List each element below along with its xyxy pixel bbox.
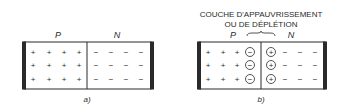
electron-charge: − — [109, 48, 114, 57]
hole-charge: + — [77, 48, 82, 57]
electron-charge: − — [298, 61, 303, 70]
hole-charge: + — [235, 48, 240, 57]
electron-charge: − — [313, 75, 318, 84]
electron-charge: − — [124, 48, 129, 57]
depletion-title-line1: COUCHE D'APPAUVRISSEMENT — [200, 10, 323, 19]
positive-ion: + — [269, 61, 274, 70]
hole-charge: + — [206, 48, 211, 57]
depletion-brace — [247, 31, 275, 36]
hole-charge: + — [206, 75, 211, 84]
electron-charge: − — [94, 61, 99, 70]
p-region-label-a: P — [55, 30, 61, 40]
depletion-title-line2: OU DE DÉPLÉTION — [225, 20, 298, 29]
hole-charge: + — [31, 61, 36, 70]
negative-ion: − — [248, 75, 253, 84]
hole-charge: + — [235, 75, 240, 84]
pn-junction-diagram: P N a) ++++−−−−++++−−−−++++−−−− COUCHE D… — [0, 0, 350, 110]
hole-charge: + — [221, 75, 226, 84]
electron-charge: − — [124, 75, 129, 84]
positive-ion: + — [269, 48, 274, 57]
figure-a: P N a) ++++−−−−++++−−−−++++−−−− — [22, 30, 154, 104]
charges-b: +++−−−−++++−−−−++++−−−−+ — [206, 48, 318, 85]
electron-charge: − — [298, 75, 303, 84]
electron-charge: − — [124, 61, 129, 70]
electron-charge: − — [313, 48, 318, 57]
hole-charge: + — [31, 75, 36, 84]
caption-a: a) — [83, 95, 90, 104]
electron-charge: − — [109, 75, 114, 84]
p-region-label-b: P — [230, 30, 236, 40]
electron-charge: − — [139, 75, 144, 84]
hole-charge: + — [235, 61, 240, 70]
electron-charge: − — [139, 48, 144, 57]
hole-charge: + — [221, 61, 226, 70]
hole-charge: + — [62, 48, 67, 57]
caption-b: b) — [257, 95, 264, 104]
left-contact-b — [197, 42, 201, 90]
electron-charge: − — [94, 48, 99, 57]
electron-charge: − — [283, 61, 288, 70]
left-contact-a — [22, 42, 26, 90]
hole-charge: + — [77, 75, 82, 84]
electron-charge: − — [283, 48, 288, 57]
electron-charge: − — [94, 75, 99, 84]
positive-ion: + — [269, 75, 274, 84]
hole-charge: + — [47, 75, 52, 84]
electron-charge: − — [109, 61, 114, 70]
negative-ion: − — [248, 61, 253, 70]
hole-charge: + — [31, 48, 36, 57]
electron-charge: − — [298, 48, 303, 57]
right-contact-b — [323, 42, 327, 90]
hole-charge: + — [221, 48, 226, 57]
hole-charge: + — [206, 61, 211, 70]
hole-charge: + — [77, 61, 82, 70]
n-region-label-b: N — [288, 30, 295, 40]
hole-charge: + — [47, 48, 52, 57]
negative-ion: − — [248, 48, 253, 57]
hole-charge: + — [47, 61, 52, 70]
electron-charge: − — [139, 61, 144, 70]
electron-charge: − — [283, 75, 288, 84]
semiconductor-block-b — [199, 42, 325, 89]
right-contact-a — [150, 42, 154, 90]
figure-b: COUCHE D'APPAUVRISSEMENT OU DE DÉPLÉTION… — [197, 10, 327, 104]
hole-charge: + — [62, 75, 67, 84]
electron-charge: − — [313, 61, 318, 70]
n-region-label-a: N — [114, 30, 121, 40]
hole-charge: + — [62, 61, 67, 70]
